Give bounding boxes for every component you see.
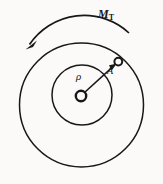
radius-rho-label: ρ <box>76 71 81 82</box>
torque-subscript: T <box>109 13 114 22</box>
torque-shaft-diagram <box>0 0 163 184</box>
figure-container: MT ρ A <box>0 0 163 184</box>
outer-shaft-circle <box>20 43 144 167</box>
torque-symbol: M <box>98 7 109 21</box>
torque-arc <box>30 15 130 44</box>
torque-moment-label: MT <box>98 8 114 22</box>
point-a-marker <box>114 58 122 66</box>
point-a-label: A <box>107 66 113 76</box>
